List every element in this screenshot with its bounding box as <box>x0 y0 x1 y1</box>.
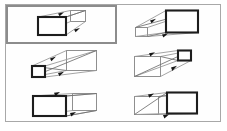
box-top-right-svg <box>132 7 204 41</box>
box-diagram-bottom-left[interactable] <box>28 89 100 121</box>
box-diagram-bottom-right[interactable] <box>131 89 203 121</box>
figure-root <box>0 0 227 131</box>
box-diagram-middle-right[interactable] <box>131 48 203 82</box>
arrowhead <box>149 52 155 56</box>
box-bottom-right-svg <box>131 89 203 121</box>
box-middle-right-svg <box>131 48 203 82</box>
arrowhead <box>163 114 169 118</box>
box-diagram-top-right[interactable] <box>132 7 204 41</box>
selected-cell-highlight[interactable] <box>6 5 117 44</box>
arrowhead <box>162 34 168 38</box>
box-diagram-middle-left[interactable] <box>28 48 100 82</box>
box-bottom-left-svg <box>28 89 100 121</box>
box-middle-left-svg <box>28 48 100 82</box>
